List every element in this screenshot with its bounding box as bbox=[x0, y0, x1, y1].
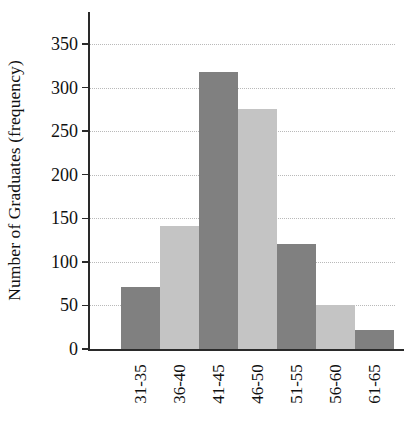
bar bbox=[121, 287, 160, 349]
x-tick-label-text: 41-45 bbox=[209, 364, 229, 404]
x-tick-label: 31-35 bbox=[121, 352, 160, 431]
x-tick-label-text: 56-60 bbox=[326, 364, 346, 404]
x-tick-label-text: 31-35 bbox=[131, 364, 151, 404]
y-axis-tick-labels: 050100150200250300350 bbox=[26, 0, 78, 431]
x-tick-label-text: 36-40 bbox=[170, 364, 190, 404]
x-tick-label: 46-50 bbox=[238, 352, 277, 431]
bar bbox=[316, 305, 355, 349]
y-tick-label: 0 bbox=[30, 340, 78, 358]
bar bbox=[238, 109, 277, 349]
bars-group bbox=[121, 0, 394, 349]
histogram-chart: Number of Graduates (frequency) 05010015… bbox=[0, 0, 417, 431]
y-tick-label: 150 bbox=[30, 209, 78, 227]
x-tick-label: 61-65 bbox=[355, 352, 394, 431]
y-tick-label: 300 bbox=[30, 79, 78, 97]
y-tick-label: 350 bbox=[30, 35, 78, 53]
y-axis-line bbox=[88, 12, 90, 350]
x-tick-label-text: 46-50 bbox=[248, 364, 268, 404]
bar bbox=[277, 244, 316, 349]
bar bbox=[199, 72, 238, 349]
x-axis-tick-labels: 31-3536-4041-4546-5051-5556-6061-65 bbox=[121, 352, 394, 431]
x-tick-label: 41-45 bbox=[199, 352, 238, 431]
x-tick-label-text: 61-65 bbox=[365, 364, 385, 404]
y-tick-label: 50 bbox=[30, 296, 78, 314]
x-tick-label: 56-60 bbox=[316, 352, 355, 431]
bar bbox=[160, 226, 199, 349]
x-tick-label-text: 51-55 bbox=[287, 364, 307, 404]
y-tick-label: 250 bbox=[30, 122, 78, 140]
x-tick-label: 36-40 bbox=[160, 352, 199, 431]
y-tick-label: 200 bbox=[30, 166, 78, 184]
x-axis-line bbox=[88, 349, 404, 351]
x-tick-label: 51-55 bbox=[277, 352, 316, 431]
bar bbox=[355, 330, 394, 349]
y-tick-label: 100 bbox=[30, 253, 78, 271]
